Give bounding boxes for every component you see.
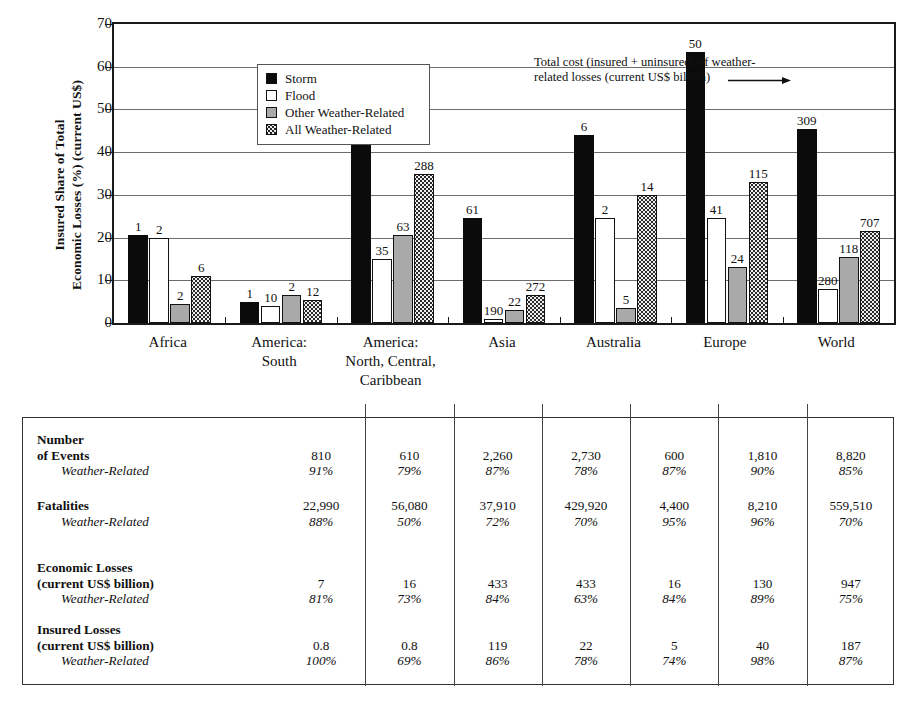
bar-value-label: 115 [739,166,779,182]
table-cell-value: 187 [796,638,906,654]
y-tick-mark [105,195,112,196]
legend-swatch-flood-icon [266,90,277,101]
x-axis-label-line: Caribbean [335,371,446,390]
x-axis-label-line: America: [223,333,334,352]
legend-swatch-all-icon [266,124,277,135]
data-table-wrap: Numberof EventsWeather-Related81091%6107… [22,417,894,685]
x-axis-label-line: America: [335,333,446,352]
bar-storm [686,52,706,323]
y-tick-mark [105,280,112,281]
legend-item-all: All Weather-Related [266,121,423,138]
bar-storm [574,135,594,323]
legend-item-flood: Flood [266,87,423,104]
bar-all [526,295,546,323]
bar-value-label: 309 [787,113,827,129]
bar-other [728,267,748,323]
legend-item-storm: Storm [266,70,423,87]
annotation-arrow-icon [728,76,791,85]
bar-other [393,235,413,323]
x-axis-label-line: South [223,352,334,371]
annotation-text: Total cost (insured + uninsured) of weat… [534,55,755,84]
x-axis-labels: AfricaAmerica:SouthAmerica:North, Centra… [112,333,896,399]
bar-other [170,304,190,323]
legend-label-all: All Weather-Related [285,123,391,136]
bar-value-label: 2 [585,202,625,218]
x-axis-label: Europe [669,333,780,352]
legend-label-storm: Storm [285,72,317,85]
table-row-label-line2: (current US$ billion) [37,576,277,592]
bar-value-label: 50 [676,36,716,52]
bar-all [303,300,323,323]
x-axis-tick [783,317,784,323]
table-row-label-line2: (current US$ billion) [37,638,277,654]
table-row-label-line2: of Events [37,448,277,464]
table-row-sublabel: Weather-Related [37,653,277,669]
table-cell-percent: 75% [796,591,906,607]
table-row-label: Numberof EventsWeather-Related [37,432,277,479]
legend-item-other: Other Weather-Related [266,104,423,121]
data-table: Numberof EventsWeather-Related81091%6107… [22,417,894,685]
table-row-label: FatalitiesWeather-Related [37,498,277,529]
bar-all [637,195,657,323]
bar-value-label: 6 [181,260,221,276]
table-cell-percent: 70% [796,514,906,530]
bar-value-label: 14 [627,179,667,195]
table-cell: 94775% [796,576,906,607]
x-axis-label-line: Australia [558,333,669,352]
bar-all [860,231,880,323]
bar-chart: Insured Share of Total Economic Losses (… [0,0,913,400]
table-row-label: Economic Losses(current US$ billion)Weat… [37,560,277,607]
x-axis-label: America:North, Central,Caribbean [335,333,446,390]
bar-storm [128,235,148,323]
bar-storm [797,129,817,323]
gridline [114,67,894,68]
x-axis-label: America:South [223,333,334,371]
annotation-line1: Total cost (insured + uninsured) of weat… [534,55,755,70]
bar-all [414,174,434,324]
gridline [114,195,894,196]
x-axis-label: Australia [558,333,669,352]
table-row-sublabel: Weather-Related [37,514,277,530]
table-row-label-line1: Number [37,432,277,448]
bar-flood [149,238,169,323]
bar-flood [372,259,392,323]
legend-swatch-other-icon [266,107,277,118]
bar-value-label: 61 [453,202,493,218]
bar-other [505,310,525,323]
table-cell-value: 8,820 [796,448,906,464]
x-axis-label: Asia [446,333,557,352]
bar-value-label: 272 [516,279,556,295]
legend-label-other: Other Weather-Related [285,106,404,119]
table-cell: 18787% [796,638,906,669]
bar-all [191,276,211,323]
x-axis-label-line: Asia [446,333,557,352]
x-axis-tick [225,317,226,323]
legend-swatch-storm-icon [266,73,277,84]
bar-value-label: 12 [293,284,333,300]
x-axis-label-line: North, Central, [335,352,446,371]
annotation-line2: related losses (current US$ billion) [534,70,755,85]
x-axis-label: Africa [112,333,223,352]
table-cell: 559,51070% [796,498,906,529]
bar-flood [707,218,727,323]
x-axis-label-line: Africa [112,333,223,352]
bar-value-label: 6 [564,119,604,135]
legend: Storm Flood Other Weather-Related All We… [257,64,430,145]
bar-flood [818,289,838,323]
legend-label-flood: Flood [285,89,315,102]
x-axis-tick [671,317,672,323]
y-tick-mark [105,109,112,110]
bar-other [839,257,859,323]
table-cell-percent: 85% [796,463,906,479]
bar-value-label: 707 [850,215,890,231]
bar-storm [351,127,371,323]
gridline [114,109,894,110]
y-tick-mark [105,152,112,153]
y-axis-ticks: 010203040506070 [60,22,112,325]
table-cell-value: 947 [796,576,906,592]
bar-flood [484,319,504,323]
gridline [114,238,894,239]
x-axis-tick [337,317,338,323]
table-row-label: Insured Losses(current US$ billion)Weath… [37,622,277,669]
figure-root: Insured Share of Total Economic Losses (… [0,0,913,714]
